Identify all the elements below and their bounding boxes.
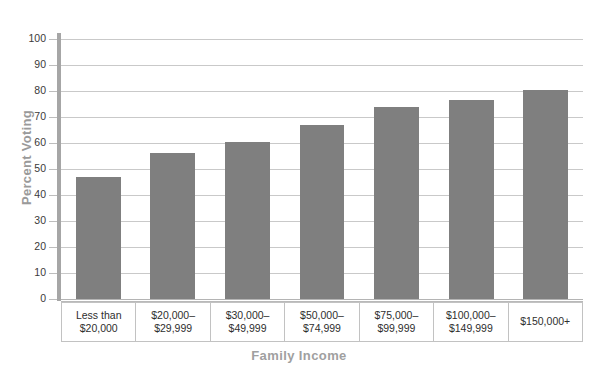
y-axis-tick-label: 30: [0, 215, 46, 226]
y-axis-tick: [49, 117, 57, 118]
category-label-cell: Less than$20,000: [61, 302, 136, 342]
category-label-line: $30,000–: [226, 309, 270, 322]
bar: [523, 90, 568, 299]
y-axis-tick-label: 80: [0, 85, 46, 96]
y-axis-tick: [49, 247, 57, 248]
category-label-cell: $30,000–$49,999: [211, 302, 285, 342]
category-label-line: $100,000–: [446, 309, 496, 322]
y-axis-tick: [49, 195, 57, 196]
category-label-cell: $100,000–$149,999: [434, 302, 508, 342]
y-axis-tick-label: 10: [0, 267, 46, 278]
category-label-cell: $150,000+: [509, 302, 583, 342]
y-axis-tick: [49, 221, 57, 222]
y-axis-tick: [49, 65, 57, 66]
plot-area: [61, 39, 583, 299]
category-label-line: $29,999: [154, 322, 192, 335]
y-axis-tick: [49, 143, 57, 144]
y-axis-tick-label: 100: [0, 33, 46, 44]
category-label-line: $150,000+: [520, 315, 570, 328]
bar: [300, 125, 345, 299]
bar-chart: Percent Voting 0102030405060708090100 Le…: [0, 0, 598, 376]
category-label-line: Less than: [76, 309, 122, 322]
bar: [374, 107, 419, 299]
x-axis-title: Family Income: [0, 348, 598, 363]
y-axis-tick: [49, 169, 57, 170]
y-axis-tick: [49, 91, 57, 92]
y-axis-tick-label: 50: [0, 163, 46, 174]
y-axis-tick-label: 70: [0, 111, 46, 122]
category-label-line: $75,000–: [375, 309, 419, 322]
category-label-line: $20,000–: [151, 309, 195, 322]
y-axis-tick: [49, 273, 57, 274]
y-axis-tick-label: 60: [0, 137, 46, 148]
gridline: [61, 117, 583, 118]
y-axis-tick-label: 0: [0, 293, 46, 304]
category-label-line: $49,999: [229, 322, 267, 335]
y-axis-title: Percent Voting: [19, 88, 34, 228]
category-label-line: $20,000: [80, 322, 118, 335]
category-label-line: $74,999: [303, 322, 341, 335]
gridline: [61, 65, 583, 66]
category-label-line: $50,000–: [300, 309, 344, 322]
category-label-cell: $50,000–$74,999: [285, 302, 359, 342]
bar: [449, 100, 494, 299]
bar: [76, 177, 121, 299]
category-label-cell: $75,000–$99,999: [360, 302, 434, 342]
y-axis-tick: [49, 39, 57, 40]
category-label-cell: $20,000–$29,999: [136, 302, 210, 342]
category-label-line: $99,999: [377, 322, 415, 335]
gridline: [61, 299, 583, 300]
category-axis-table: Less than$20,000$20,000–$29,999$30,000–$…: [61, 301, 583, 342]
gridline: [61, 91, 583, 92]
gridline: [61, 39, 583, 40]
bar: [150, 153, 195, 299]
bar: [225, 142, 270, 299]
y-axis-tick: [49, 299, 57, 300]
y-axis-tick-label: 20: [0, 241, 46, 252]
y-axis-tick-label: 90: [0, 59, 46, 70]
y-axis-tick-label: 40: [0, 189, 46, 200]
category-label-line: $149,999: [449, 322, 493, 335]
